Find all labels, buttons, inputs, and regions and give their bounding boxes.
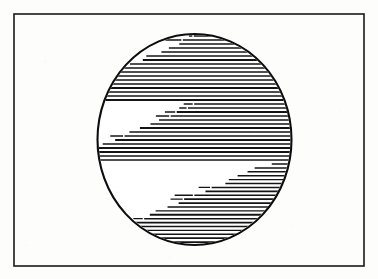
figure-page [0,0,378,279]
figure-canvas [0,0,378,279]
